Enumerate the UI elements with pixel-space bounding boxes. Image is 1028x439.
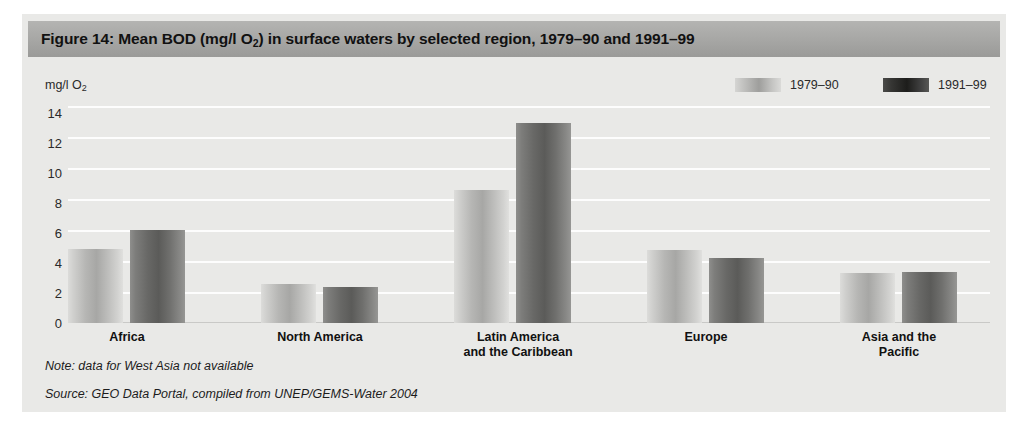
plot-area (68, 106, 990, 323)
legend-swatch-icon-1979-90 (735, 78, 781, 92)
y-tick-label-12: 12 (28, 136, 62, 151)
category-label-north-america-line1: North America (255, 330, 385, 345)
bar-north-america-1991-99 (323, 287, 378, 323)
legend-item-1979-90: 1979–90 (735, 78, 839, 92)
title-prefix: Figure 14: Mean BOD (mg/l O (41, 30, 253, 47)
gridline-14 (68, 106, 990, 108)
chart-note: Note: data for West Asia not available (45, 359, 253, 373)
legend-swatch-icon-1991-99 (883, 78, 929, 92)
y-tick-label-14: 14 (28, 106, 62, 121)
legend-label-1991-99: 1991–99 (938, 78, 987, 92)
y-tick-label-0: 0 (28, 316, 62, 331)
y-axis-unit-prefix: mg/l O (45, 78, 82, 92)
figure-container: Figure 14: Mean BOD (mg/l O2) in surface… (0, 0, 1028, 439)
title-suffix: ) in surface waters by selected region, … (259, 30, 695, 47)
y-tick-label-4: 4 (28, 256, 62, 271)
bar-latin-america-1979-90 (454, 190, 509, 323)
figure-title-band: Figure 14: Mean BOD (mg/l O2) in surface… (28, 21, 1000, 57)
y-axis: 14 12 10 8 6 4 2 0 (28, 106, 62, 326)
category-label-africa: Africa (62, 330, 192, 345)
y-tick-label-6: 6 (28, 226, 62, 241)
y-tick-label-8: 8 (28, 196, 62, 211)
category-label-africa-line1: Africa (62, 330, 192, 345)
y-axis-unit-subscript: 2 (82, 83, 87, 93)
y-axis-unit-label: mg/l O2 (45, 78, 87, 92)
page-title: Figure 14: Mean BOD (mg/l O2) in surface… (41, 30, 695, 48)
category-label-asia-pacific-line2: Pacific (834, 345, 964, 360)
y-tick-label-2: 2 (28, 286, 62, 301)
title-subscript: 2 (253, 37, 259, 49)
bar-africa-1991-99 (130, 230, 185, 323)
chart-legend: 1979–90 1991–99 (735, 78, 995, 96)
bar-europe-1979-90 (647, 250, 702, 323)
category-label-europe-line1: Europe (641, 330, 771, 345)
category-label-europe: Europe (641, 330, 771, 345)
bar-latin-america-1991-99 (516, 123, 571, 323)
category-label-latin-america-line2: and the Caribbean (448, 345, 588, 360)
bar-africa-1979-90 (68, 249, 123, 323)
category-label-latin-america-line1: Latin America (448, 330, 588, 345)
legend-item-1991-99: 1991–99 (883, 78, 987, 92)
bar-europe-1991-99 (709, 258, 764, 323)
bar-asia-pacific-1991-99 (902, 272, 957, 323)
category-label-asia-pacific: Asia and the Pacific (834, 330, 964, 360)
chart-source: Source: GEO Data Portal, compiled from U… (45, 387, 418, 401)
category-label-north-america: North America (255, 330, 385, 345)
bar-asia-pacific-1979-90 (840, 273, 895, 323)
category-label-latin-america: Latin America and the Caribbean (448, 330, 588, 360)
y-tick-label-10: 10 (28, 166, 62, 181)
legend-label-1979-90: 1979–90 (790, 78, 839, 92)
bar-north-america-1979-90 (261, 284, 316, 323)
category-label-asia-pacific-line1: Asia and the (834, 330, 964, 345)
